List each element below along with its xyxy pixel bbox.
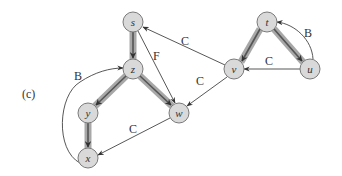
svg-text:v: v (232, 63, 237, 75)
cross-edge-v-w (187, 77, 227, 106)
tree-edge-t-u (274, 29, 303, 62)
edge-label-c-vw: C (196, 74, 204, 88)
edge-labels: F C C C C B B (74, 26, 312, 136)
svg-text:y: y (85, 107, 91, 119)
tree-edge-z-y (95, 76, 126, 106)
node-v: v (224, 59, 244, 79)
svg-text:x: x (85, 152, 91, 164)
edge-label-c-vs: C (181, 34, 189, 48)
node-t: t (257, 12, 277, 32)
edge-label-f: F (153, 49, 160, 63)
svg-text:u: u (307, 63, 313, 75)
edge-label-b-xz: B (74, 69, 82, 83)
tree-edge-z-w (140, 76, 172, 106)
tree-edges (88, 29, 303, 148)
node-w: w (169, 103, 189, 123)
svg-text:w: w (175, 107, 183, 119)
graph-canvas: F C C C C B B s z y x (0, 0, 342, 176)
node-u: u (300, 59, 320, 79)
svg-text:z: z (130, 63, 136, 75)
node-x: x (78, 148, 98, 168)
node-z: z (123, 59, 143, 79)
edge-label-b-ut: B (304, 26, 312, 40)
dfs-edge-classification-diagram: (c) (0, 0, 342, 176)
panel-label: (c) (22, 87, 35, 102)
edge-label-c-uv: C (265, 54, 273, 68)
tree-edge-t-v (241, 29, 260, 62)
node-s: s (123, 12, 143, 32)
edge-label-c-wx: C (129, 122, 137, 136)
svg-text:s: s (131, 16, 135, 28)
node-y: y (78, 103, 98, 123)
